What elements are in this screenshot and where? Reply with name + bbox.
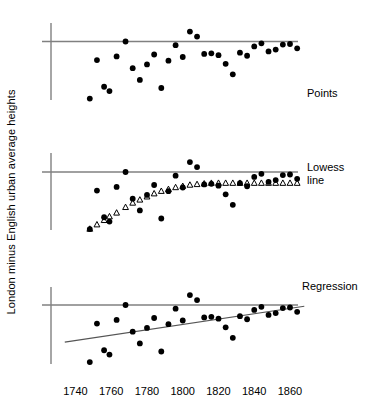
data-marker-point [280,42,286,48]
data-marker-point [114,184,120,190]
x-tick-label-1860: 1860 [270,385,310,397]
data-marker-triangle [107,213,113,218]
data-marker-point [251,307,257,313]
data-marker-point [259,171,265,177]
x-tick-label-1800: 1800 [163,385,203,397]
data-marker-triangle [94,221,100,226]
data-marker-point [101,84,107,90]
data-marker-point [251,174,257,180]
data-marker-point [223,191,229,197]
data-marker-point [216,316,222,322]
data-marker-point [101,347,107,353]
data-marker-point [144,62,150,68]
data-marker-point [130,65,136,71]
data-marker-point [273,177,279,183]
data-marker-point [94,188,100,194]
data-marker-point [187,29,193,35]
data-marker-point [244,183,250,189]
x-tick-label-1760: 1760 [91,385,131,397]
data-marker-point [223,61,229,67]
data-marker-point [187,292,193,298]
data-marker-point [173,306,179,312]
data-marker-point [137,208,143,214]
panel-2-regression-fit-line [65,306,305,342]
data-marker-point [107,88,113,94]
data-marker-point [273,310,279,316]
data-marker-point [180,185,186,191]
data-marker-triangle [223,180,229,185]
data-marker-point [266,312,272,318]
chart-figure: London minus English urban average heigh… [0,0,379,404]
data-marker-point [208,50,214,56]
data-marker-triangle [287,180,293,185]
data-marker-point [216,52,222,58]
data-marker-point [114,53,120,59]
x-tick-label-1840: 1840 [234,385,274,397]
x-tick-label-1740: 1740 [56,385,96,397]
data-marker-point [107,219,113,225]
data-marker-point [244,53,250,59]
data-marker-triangle [137,197,143,202]
data-marker-point [87,226,93,232]
data-marker-point [101,214,107,220]
data-marker-point [158,85,164,91]
data-marker-point [251,44,257,50]
data-marker-point [223,324,229,330]
data-marker-point [151,315,157,321]
data-marker-point [94,57,100,63]
data-marker-point [144,325,150,331]
data-marker-point [194,164,200,170]
data-marker-point [208,314,214,320]
data-marker-point [230,202,236,208]
data-marker-triangle [259,180,265,185]
data-marker-point [201,315,207,321]
data-marker-point [180,54,186,60]
data-marker-point [123,39,129,45]
x-tick-label-1780: 1780 [127,385,167,397]
data-marker-point [237,50,243,56]
data-marker-point [114,317,120,323]
data-marker-point [287,41,293,47]
data-marker-point [287,305,293,311]
data-marker-point [130,196,136,202]
data-marker-point [130,329,136,335]
data-marker-point [144,192,150,198]
data-marker-point [94,321,100,327]
data-marker-triangle [173,184,179,189]
data-marker-point [230,71,236,77]
data-marker-point [123,302,129,308]
data-marker-point [87,96,93,102]
data-marker-point [158,349,164,355]
data-marker-point [280,305,286,311]
data-marker-point [294,45,300,51]
data-marker-point [201,182,207,188]
data-marker-point [216,183,222,189]
data-marker-point [294,309,300,315]
data-marker-point [173,173,179,179]
data-marker-point [237,180,243,186]
data-marker-triangle [251,180,257,185]
data-marker-triangle [187,182,193,187]
data-marker-point [173,42,179,48]
data-marker-point [166,188,172,194]
data-marker-triangle [158,188,164,193]
data-marker-point [166,321,172,327]
data-marker-point [287,172,293,178]
data-marker-point [158,216,164,222]
data-marker-point [244,316,250,322]
data-marker-point [201,51,207,57]
data-marker-point [123,169,129,175]
data-marker-point [107,352,113,358]
data-marker-point [237,313,243,319]
data-marker-point [208,181,214,187]
data-marker-triangle [194,181,200,186]
data-marker-triangle [280,180,286,185]
data-marker-point [187,159,193,165]
data-marker-point [194,297,200,303]
data-marker-point [151,52,157,58]
data-marker-triangle [123,204,129,209]
data-marker-point [180,318,186,324]
data-marker-point [87,359,93,365]
data-marker-point [194,34,200,40]
data-marker-triangle [114,210,120,215]
